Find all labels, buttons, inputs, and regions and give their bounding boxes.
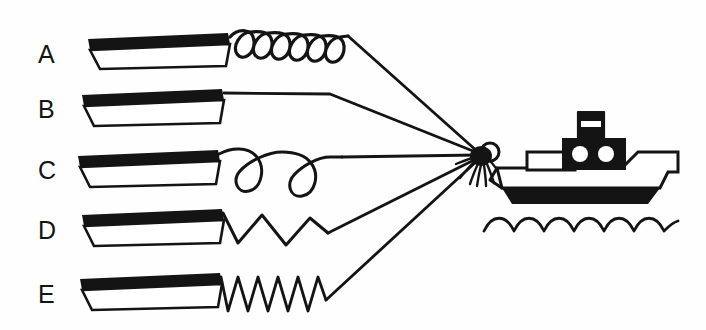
- row-a-group: [88, 31, 478, 152]
- barge-c: [78, 150, 220, 187]
- spring-e-zigzag: [221, 277, 326, 311]
- spring-c-loops: [219, 149, 342, 196]
- spring-a-helix: [230, 31, 348, 63]
- barge-e-hull: [82, 284, 222, 310]
- row-label-a: A: [38, 40, 55, 68]
- towline-e: [326, 160, 478, 300]
- boat-superstructure: [562, 138, 626, 170]
- wave-line: [484, 218, 678, 231]
- spring-d-zigzag: [223, 213, 328, 245]
- smokestack-band: [581, 121, 601, 127]
- barge-c-hull: [80, 161, 220, 187]
- boat-hull: [502, 188, 660, 204]
- porthole-left: [572, 146, 588, 162]
- barge-b-hull: [84, 100, 224, 126]
- row-label-e: E: [38, 280, 55, 308]
- towline-d: [328, 158, 478, 233]
- tugboat-barges-diagram: A B C D E: [0, 0, 706, 330]
- barge-a: [88, 33, 230, 69]
- row-label-b: B: [38, 95, 55, 123]
- waves: [484, 218, 678, 231]
- figure-root: A B C D E: [0, 0, 706, 330]
- barge-e: [80, 273, 222, 310]
- towline-c: [342, 155, 478, 157]
- row-label-c: C: [38, 156, 56, 184]
- barge-b: [82, 89, 224, 126]
- towline-b: [224, 93, 478, 153]
- row-label-d: D: [38, 216, 56, 244]
- tugboat: [490, 112, 678, 204]
- porthole-right: [598, 146, 614, 162]
- barge-d: [82, 209, 224, 246]
- towline-a: [348, 36, 478, 152]
- barge-d-hull: [84, 220, 224, 246]
